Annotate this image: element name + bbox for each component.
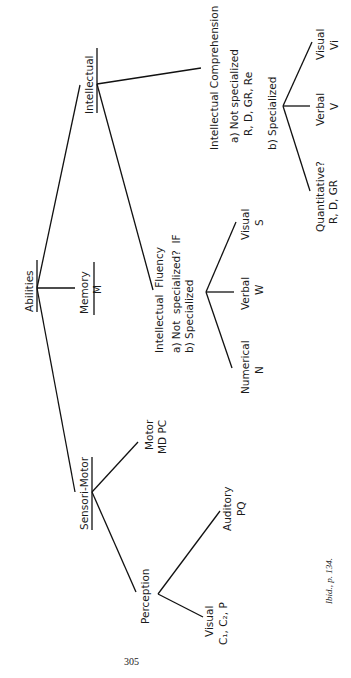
edge-comp-visual [283, 42, 312, 106]
comprehension-specialized: b) Specialized [266, 77, 278, 151]
node-memory: Memory [78, 271, 90, 314]
edge-abilities-sensorimotor [37, 288, 75, 492]
page-number: 305 [124, 656, 139, 667]
edge-sensorimotor-motor [92, 442, 138, 492]
node-intellectual-fluency: Intellectual Fluency [153, 247, 165, 353]
node-motor: Motor [143, 419, 155, 450]
node-intellectual: Intellectual [83, 55, 95, 114]
ability-hierarchy-diagram: Abilities Intellectual Memory M Sensori-… [0, 0, 351, 678]
comprehension-not-specialized-codes: R, D, GR, Re [242, 72, 254, 136]
edge-comp-quantitative [283, 106, 310, 191]
node-fluency-verbal: Verbal [239, 277, 251, 310]
node-sensorimotor: Sensori-Motor [78, 456, 90, 530]
node-fluency-numerical-code: N [253, 366, 265, 374]
node-auditory: Auditory [221, 487, 233, 532]
node-fluency-visual: Visual [239, 209, 251, 240]
node-comp-verbal-code: V [328, 102, 340, 110]
edge-perception-auditory [158, 511, 220, 594]
footnote: Ibid., p. 134. [324, 558, 334, 605]
edge-abilities-intellectual [37, 85, 80, 288]
node-comp-quantitative-code: R, D, GR [327, 180, 339, 224]
node-perception-visual-code: C₁, C₂, P [217, 602, 229, 645]
fluency-not-specialized: a) Not specialized? IF [170, 234, 182, 353]
node-intellectual-comprehension: Intellectual Comprehension [208, 6, 220, 150]
node-fluency-verbal-code: W [253, 284, 265, 295]
node-auditory-code: PQ [235, 501, 247, 516]
comprehension-not-specialized: a) Not specialized [228, 49, 240, 143]
node-memory-code: M [91, 285, 103, 294]
edge-intellectual-fluency [97, 84, 153, 290]
node-comp-quantitative: Quantitative? [314, 161, 326, 232]
node-perception-visual: Visual [203, 606, 215, 637]
node-comp-visual-code: Vi [328, 40, 340, 50]
node-fluency-numerical: Numerical [239, 340, 251, 394]
node-perception: Perception [139, 568, 151, 624]
edge-fluency-visual [206, 222, 236, 292]
node-abilities: Abilities [23, 270, 35, 312]
node-comp-visual: Visual [314, 29, 326, 60]
node-comp-verbal: Verbal [314, 93, 326, 126]
edge-fluency-numerical [206, 292, 232, 368]
node-motor-code: MD PC [156, 420, 168, 454]
fluency-specialized: b) Specialized [183, 280, 195, 354]
node-fluency-visual-code: S [253, 219, 265, 226]
edge-sensorimotor-perception [92, 492, 136, 592]
edge-perception-visual [158, 594, 203, 617]
edge-intellectual-comprehension [97, 68, 201, 84]
